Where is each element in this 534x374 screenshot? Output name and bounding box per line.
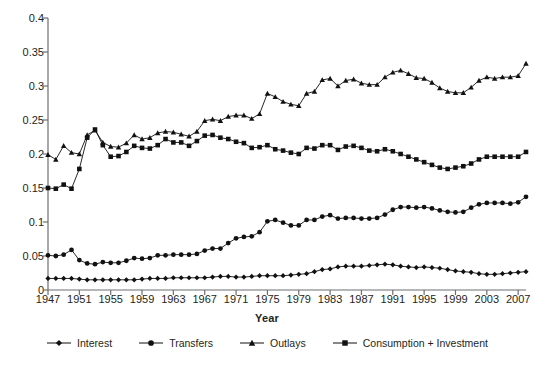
data-point [289, 150, 294, 155]
data-point [85, 277, 90, 282]
data-point [100, 277, 105, 282]
legend-item-consumption-investment[interactable]: Consumption + Investment [332, 337, 488, 349]
data-point [61, 276, 66, 281]
legend-item-transfers[interactable]: Transfers [138, 337, 213, 349]
data-point [476, 78, 481, 83]
triangle-marker-icon [239, 337, 265, 349]
data-point [343, 144, 348, 149]
x-tick-label: 1999 [443, 293, 467, 305]
legend-item-interest[interactable]: Interest [46, 337, 112, 349]
data-point [437, 85, 442, 90]
data-point [92, 277, 97, 282]
legend-item-outlays[interactable]: Outlays [239, 337, 306, 349]
data-point [296, 223, 301, 228]
data-point [69, 276, 74, 281]
data-point [500, 201, 505, 206]
data-point [461, 164, 466, 169]
data-point [296, 272, 301, 277]
data-point [93, 262, 98, 267]
data-point [179, 252, 184, 257]
data-point [492, 272, 497, 277]
data-point [202, 248, 207, 253]
data-point [195, 139, 200, 144]
data-point [453, 165, 458, 170]
data-point [69, 186, 74, 191]
data-point [273, 147, 278, 152]
data-point [257, 230, 262, 235]
data-point [218, 246, 223, 251]
chart-legend: InterestTransfersOutlaysConsumption + In… [0, 337, 534, 349]
data-point [523, 61, 528, 66]
x-tick-label: 1951 [67, 293, 91, 305]
y-axis-tick-labels: 00.050.10.150.20.250.30.350.4 [0, 18, 44, 290]
data-point [438, 165, 443, 170]
data-point [398, 152, 403, 157]
data-point [116, 154, 121, 159]
data-point [202, 275, 207, 280]
data-point [453, 268, 458, 273]
data-point [234, 139, 239, 144]
data-point [398, 68, 403, 73]
data-point [69, 247, 74, 252]
data-point [492, 201, 497, 206]
data-point [100, 260, 105, 265]
data-point [257, 111, 262, 116]
data-point [328, 143, 333, 148]
data-point [265, 91, 270, 96]
x-tick-label: 1955 [98, 293, 122, 305]
x-tick-label: 1991 [381, 293, 405, 305]
data-point [414, 205, 419, 210]
data-point [469, 270, 474, 275]
data-point [273, 94, 278, 99]
y-tick-label: 0.15 [4, 183, 44, 193]
data-point [257, 145, 262, 150]
data-point [61, 182, 66, 187]
data-point [249, 234, 254, 239]
data-point [375, 216, 380, 221]
data-point [124, 258, 129, 263]
data-point [524, 150, 529, 155]
plot-area [48, 18, 526, 290]
data-point [398, 205, 403, 210]
data-point [187, 252, 192, 257]
data-point [304, 218, 309, 223]
data-point [430, 206, 435, 211]
data-point [273, 273, 278, 278]
y-tick-label: 0.35 [4, 47, 44, 57]
data-point [194, 275, 199, 280]
chart-svg [48, 18, 526, 290]
data-point [484, 201, 489, 206]
data-point [375, 262, 380, 267]
data-point [516, 200, 521, 205]
data-point [359, 264, 364, 269]
data-point [406, 264, 411, 269]
x-tick-label: 1975 [255, 293, 279, 305]
data-point [461, 209, 466, 214]
data-point [140, 256, 145, 261]
data-point [249, 116, 254, 121]
y-tick-label: 0.3 [4, 81, 44, 91]
data-point [477, 157, 482, 162]
data-point [85, 261, 90, 266]
data-point [116, 260, 121, 265]
data-point [406, 71, 411, 76]
x-tick-label: 1983 [318, 293, 342, 305]
data-point [327, 76, 332, 81]
data-point [328, 213, 333, 218]
data-point [289, 223, 294, 228]
data-point [327, 266, 332, 271]
data-point [147, 276, 152, 281]
data-point [312, 269, 317, 274]
data-point [414, 265, 419, 270]
data-point [453, 210, 458, 215]
data-point [226, 241, 231, 246]
data-point [101, 143, 106, 148]
data-point [429, 80, 434, 85]
data-point [430, 163, 435, 168]
data-point [53, 254, 58, 259]
data-point [296, 152, 301, 157]
data-point [108, 260, 113, 265]
data-point [304, 146, 309, 151]
data-point [414, 157, 419, 162]
data-point [171, 275, 176, 280]
